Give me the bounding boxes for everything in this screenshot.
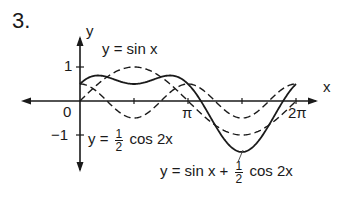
- fraction-one-half: 12: [235, 160, 244, 185]
- legend-half-cos-suffix: cos 2x: [129, 130, 172, 147]
- legend-sum-suffix: cos 2x: [249, 162, 292, 179]
- y-axis-label: y: [86, 22, 94, 39]
- x-axis-arrow-left: [21, 98, 31, 105]
- tick-label-2pi: 2π: [288, 104, 307, 121]
- tick-label-pi: π: [182, 104, 192, 121]
- fraction-one-half: 12: [115, 128, 124, 153]
- x-axis-label: x: [323, 78, 331, 95]
- legend-sin: y = sin x: [102, 40, 157, 57]
- tick-label-1: 1: [64, 57, 72, 74]
- tick-label-neg1: −1: [51, 126, 68, 143]
- legend-sum: y = sin x + 12 cos 2x: [160, 160, 293, 185]
- y-axis-arrow-up: [77, 36, 84, 46]
- tick-label-0: 0: [63, 103, 71, 120]
- legend-half-cos-prefix: y =: [88, 130, 108, 147]
- legend-half-cos: y = 12 cos 2x: [88, 128, 173, 153]
- legend-sum-prefix: y = sin x +: [160, 162, 228, 179]
- x-axis-arrow-right: [308, 98, 318, 105]
- y-axis-arrow-down: [77, 162, 84, 172]
